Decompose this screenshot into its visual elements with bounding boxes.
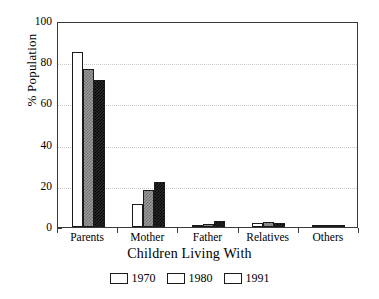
x-axis-tick xyxy=(117,228,118,233)
bar xyxy=(94,80,105,227)
x-axis-tick xyxy=(358,228,359,233)
bar-group xyxy=(58,23,118,227)
bar xyxy=(214,221,225,227)
legend-swatch xyxy=(224,273,242,284)
bar-group xyxy=(299,23,359,227)
x-axis-tick-label: Others xyxy=(313,231,344,243)
legend-label: 1970 xyxy=(132,272,156,284)
bar-group xyxy=(178,23,238,227)
bar-chart: % Population 020406080100 ParentsMotherF… xyxy=(0,0,379,299)
x-axis-tick xyxy=(238,228,239,233)
x-axis-title: Children Living With xyxy=(0,246,379,262)
y-axis-tick-label: 60 xyxy=(0,99,52,111)
bar xyxy=(143,190,154,227)
bar xyxy=(312,225,323,227)
x-axis-tick-label: Relatives xyxy=(246,231,289,243)
bar xyxy=(72,52,83,227)
bar xyxy=(323,225,334,227)
legend-swatch xyxy=(167,273,185,284)
bar xyxy=(154,182,165,227)
y-axis-tick-label: 80 xyxy=(0,57,52,69)
legend-label: 1991 xyxy=(246,272,270,284)
x-axis-tick xyxy=(57,228,58,233)
x-axis-tick-label: Parents xyxy=(70,231,104,243)
legend-item: 1970 xyxy=(110,272,156,284)
legend-swatch xyxy=(110,273,128,284)
bar-group xyxy=(239,23,299,227)
bar-group xyxy=(118,23,178,227)
bar xyxy=(252,223,263,227)
legend-label: 1980 xyxy=(189,272,213,284)
x-axis-tick xyxy=(177,228,178,233)
legend-item: 1991 xyxy=(224,272,270,284)
plot-area xyxy=(57,22,358,228)
bar xyxy=(132,204,143,227)
bar xyxy=(192,225,203,227)
bar xyxy=(83,69,94,227)
y-axis-tick-label: 0 xyxy=(0,222,52,234)
chart-legend: 197019801991 xyxy=(0,272,379,284)
bar xyxy=(203,224,214,227)
bar xyxy=(334,225,345,227)
y-axis-tick-label: 100 xyxy=(0,16,52,28)
x-axis-tick-label: Mother xyxy=(130,231,164,243)
bar xyxy=(263,222,274,227)
y-axis-tick-label: 20 xyxy=(0,181,52,193)
legend-item: 1980 xyxy=(167,272,213,284)
x-axis-tick-label: Father xyxy=(193,231,222,243)
y-axis-tick-label: 40 xyxy=(0,140,52,152)
x-axis-tick xyxy=(298,228,299,233)
bar xyxy=(274,223,285,227)
